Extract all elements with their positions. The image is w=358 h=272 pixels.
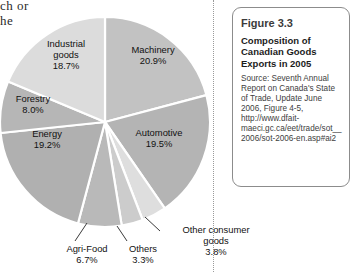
slice-label-forestry-pct: 8.0% <box>2 104 64 115</box>
slice-label-others: Others 3.3% <box>120 243 166 265</box>
slice-label-energy-pct: 19.2% <box>16 139 78 150</box>
pie-chart-figure: Machinery 20.9% Industrial goods 18.7% F… <box>0 0 213 272</box>
slice-label-energy: Energy 19.2% <box>16 128 78 150</box>
slice-label-other-consumer-goods-name2: goods <box>168 235 264 246</box>
pie-chart <box>0 0 213 240</box>
slice-label-forestry: Forestry 8.0% <box>2 93 64 115</box>
slice-label-agri-food-pct: 6.7% <box>55 254 119 265</box>
slice-label-forestry-name: Forestry <box>16 93 50 104</box>
slice-label-energy-name: Energy <box>32 128 62 139</box>
slice-label-agri-food-name: Agri-Food <box>66 243 107 254</box>
figure-title-line-3: Exports in 2005 <box>241 58 343 69</box>
slice-label-others-name: Others <box>129 243 157 254</box>
figure-title: Composition of Canadian Goods Exports in… <box>241 35 343 69</box>
slice-label-industrial-goods-pct: 18.7% <box>30 60 102 71</box>
pie-chart-svg <box>0 0 213 240</box>
slice-label-automotive-pct: 19.5% <box>123 138 195 149</box>
slice-label-machinery-name: Machinery <box>131 44 174 55</box>
figure-number: Figure 3.3 <box>241 17 343 30</box>
slice-label-automotive: Automotive 19.5% <box>123 127 195 149</box>
slice-label-industrial-goods-name: Industrial <box>47 38 85 49</box>
slice-label-machinery-pct: 20.9% <box>118 55 188 66</box>
slice-label-other-consumer-goods-pct: 3.8% <box>168 246 264 257</box>
slice-label-other-consumer-goods: Other consumer goods 3.8% <box>168 224 264 258</box>
slice-label-machinery: Machinery 20.9% <box>118 44 188 66</box>
slice-label-others-pct: 3.3% <box>120 254 166 265</box>
slice-label-industrial-goods-name2: goods <box>30 49 102 60</box>
slice-label-industrial-goods: Industrial goods 18.7% <box>30 38 102 72</box>
slice-label-agri-food: Agri-Food 6.7% <box>55 243 119 265</box>
slice-label-other-consumer-goods-name: Other consumer <box>182 224 249 235</box>
figure-source-note: Source: Seventh Annual Report on Canada'… <box>241 74 343 144</box>
figure-caption-card: Figure 3.3 Composition of Canadian Goods… <box>232 7 350 187</box>
figure-title-line-2: Canadian Goods <box>241 46 343 57</box>
slice-label-automotive-name: Automotive <box>136 127 183 138</box>
figure-title-line-1: Composition of <box>241 35 343 46</box>
figure-caption-content: Figure 3.3 Composition of Canadian Goods… <box>241 17 343 144</box>
